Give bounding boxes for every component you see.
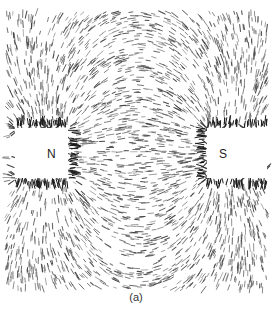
iron-filing — [92, 212, 94, 214]
iron-filing — [162, 38, 166, 39]
iron-filing — [78, 123, 84, 126]
iron-filing — [178, 97, 183, 101]
iron-filing — [53, 121, 54, 126]
iron-filing — [186, 177, 191, 178]
iron-filing — [231, 62, 232, 66]
iron-filing — [252, 120, 253, 127]
iron-filing — [147, 33, 153, 35]
iron-filing — [187, 143, 192, 144]
iron-filing — [220, 234, 222, 242]
iron-filing — [118, 274, 123, 276]
iron-filing — [250, 119, 251, 128]
iron-filing — [132, 268, 139, 269]
iron-filing — [112, 217, 117, 219]
iron-filing — [89, 26, 95, 31]
iron-filing — [254, 120, 255, 126]
iron-filing — [178, 260, 182, 264]
iron-filing — [77, 76, 81, 82]
iron-filing — [57, 216, 58, 223]
iron-filing — [176, 19, 181, 23]
iron-filing — [98, 208, 101, 210]
iron-filing — [21, 85, 23, 90]
iron-filing — [243, 24, 244, 29]
iron-filing — [60, 276, 62, 280]
iron-filing — [210, 22, 212, 27]
iron-filing — [62, 112, 63, 118]
iron-filing — [216, 238, 217, 243]
iron-filing — [84, 259, 86, 262]
iron-filing — [220, 16, 222, 21]
iron-filing — [84, 77, 88, 82]
iron-filing — [31, 80, 32, 86]
iron-filing — [189, 36, 192, 40]
iron-filing — [214, 179, 215, 184]
iron-filing — [259, 241, 260, 244]
iron-filing — [217, 225, 218, 232]
iron-filing — [265, 96, 267, 99]
iron-filing — [45, 236, 46, 243]
iron-filing — [165, 222, 168, 223]
iron-filing — [116, 56, 121, 57]
iron-filing — [143, 243, 149, 244]
iron-filing — [112, 236, 116, 238]
iron-filing — [181, 197, 184, 199]
iron-filing — [252, 230, 253, 236]
iron-filing — [149, 119, 153, 120]
iron-filing — [172, 264, 175, 266]
iron-filing — [212, 117, 213, 126]
iron-filing — [118, 187, 125, 189]
iron-filing — [164, 177, 171, 179]
iron-filing — [132, 119, 137, 120]
iron-filing — [132, 44, 137, 45]
iron-filing — [177, 136, 180, 137]
iron-filing — [17, 35, 18, 40]
iron-filing — [183, 10, 188, 14]
iron-filing — [12, 191, 15, 196]
iron-filing — [117, 166, 123, 167]
iron-filing — [125, 71, 131, 72]
iron-filing — [179, 27, 184, 30]
iron-filing — [185, 32, 188, 35]
iron-filing — [227, 203, 228, 209]
iron-filing — [61, 43, 63, 48]
iron-filing — [218, 16, 219, 20]
iron-filing — [99, 250, 102, 253]
iron-filing — [225, 35, 226, 42]
iron-filing — [137, 68, 144, 69]
iron-filing — [33, 218, 35, 225]
iron-filing — [126, 236, 129, 237]
iron-filing — [119, 49, 124, 51]
iron-filing — [258, 34, 259, 41]
iron-filing — [171, 183, 177, 185]
iron-filing — [259, 98, 261, 104]
iron-filing — [147, 224, 152, 225]
iron-filing — [116, 77, 122, 79]
iron-filing — [184, 48, 187, 51]
iron-filing — [186, 213, 191, 219]
south-magnet: S — [207, 128, 267, 178]
iron-filing — [264, 250, 265, 257]
iron-filing — [51, 276, 53, 283]
iron-filing — [87, 252, 91, 257]
iron-filing — [249, 31, 250, 37]
iron-filing — [179, 217, 183, 220]
iron-filing — [152, 28, 156, 29]
iron-filing — [153, 44, 157, 46]
iron-filing — [173, 227, 178, 230]
iron-filing — [158, 178, 164, 180]
iron-filing — [95, 210, 98, 212]
iron-filing — [6, 53, 7, 57]
iron-filing — [252, 283, 253, 286]
iron-filing — [196, 164, 203, 166]
iron-filing — [229, 189, 230, 194]
iron-filing — [198, 178, 204, 179]
iron-filing — [172, 176, 176, 177]
iron-filing — [8, 273, 9, 280]
iron-filing — [254, 259, 255, 265]
iron-filing — [109, 46, 112, 48]
iron-filing — [228, 236, 229, 243]
iron-filing — [147, 171, 150, 172]
iron-filing — [177, 281, 181, 284]
iron-filing — [23, 100, 24, 104]
iron-filing — [172, 24, 177, 26]
